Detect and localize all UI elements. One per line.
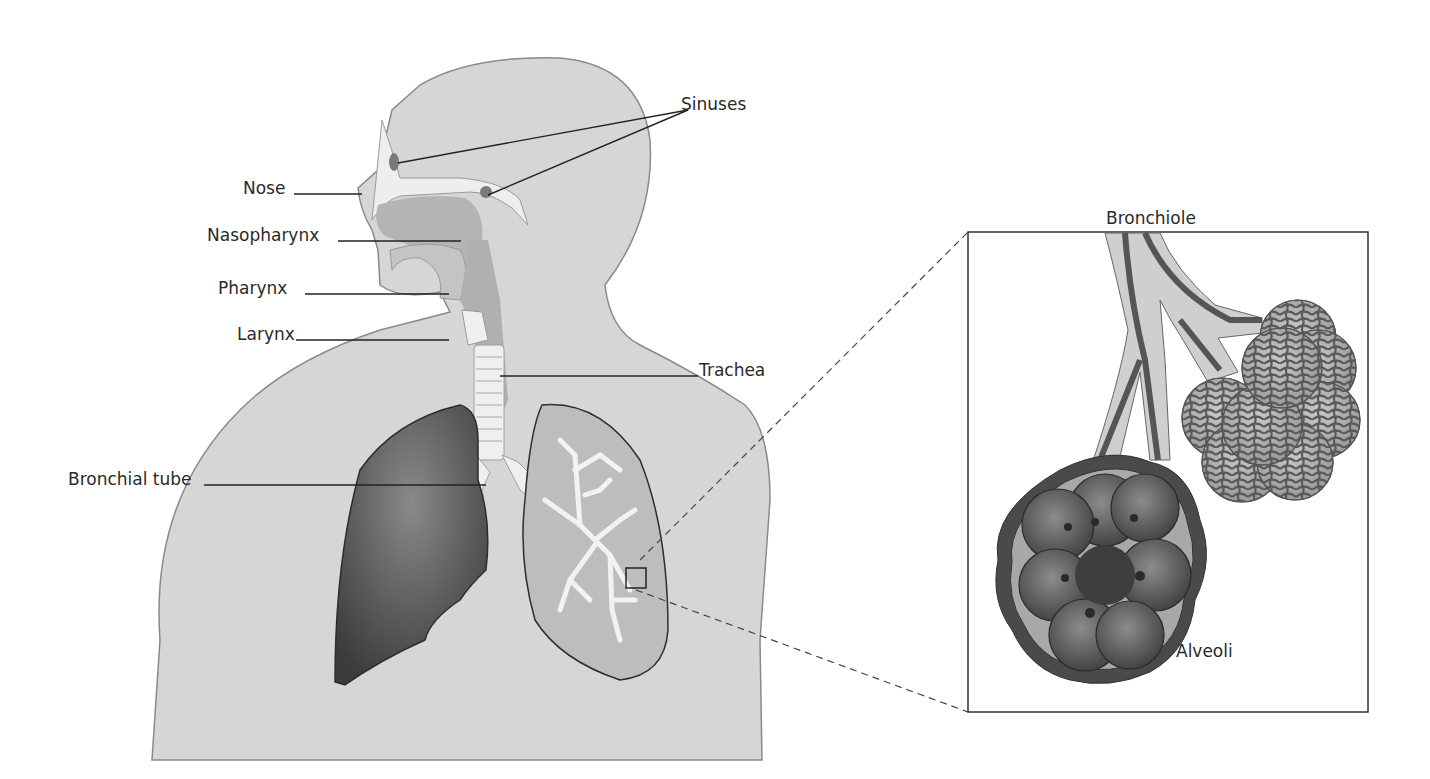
label-larynx: Larynx	[237, 324, 295, 344]
label-nasopharynx: Nasopharynx	[207, 225, 319, 245]
label-bronchiole: Bronchiole	[1106, 208, 1196, 228]
label-alveoli: Alveoli	[1176, 641, 1233, 661]
label-pharynx: Pharynx	[218, 278, 287, 298]
inset-magnified-view	[968, 232, 1368, 712]
label-bronchial-tube: Bronchial tube	[68, 469, 192, 489]
label-sinuses: Sinuses	[681, 94, 746, 114]
label-nose: Nose	[243, 178, 285, 198]
respiratory-diagram: Sinuses Nose Nasopharynx Pharynx Larynx …	[0, 0, 1430, 779]
label-trachea: Trachea	[698, 360, 765, 380]
